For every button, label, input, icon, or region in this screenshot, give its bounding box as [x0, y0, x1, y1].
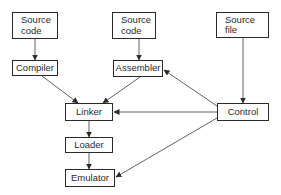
node-label: Loader [74, 140, 104, 151]
node-source-code-1: Source code [12, 12, 58, 39]
node-linker: Linker [65, 103, 113, 121]
node-source-file: Source file [216, 12, 269, 38]
node-control: Control [217, 103, 269, 121]
node-compiler: Compiler [12, 60, 58, 76]
node-assembler: Assembler [113, 60, 163, 77]
node-label: Linker [76, 107, 102, 118]
node-label: Assembler [116, 63, 161, 74]
node-label-line1: Source [21, 15, 51, 26]
node-label-line1: Source [121, 15, 151, 26]
node-emulator: Emulator [65, 169, 115, 187]
node-source-code-2: Source code [112, 12, 156, 39]
node-label: Emulator [71, 173, 109, 184]
node-label-line2: code [21, 26, 51, 37]
node-label-line2: file [225, 25, 255, 36]
node-label-line2: code [121, 26, 151, 37]
edge-control-assembler [164, 70, 217, 106]
edge-compiler-linker [42, 76, 78, 103]
node-label: Control [228, 107, 259, 118]
edge-control-emulator [116, 118, 217, 177]
edge-assembler-linker [103, 77, 140, 103]
node-loader: Loader [65, 137, 113, 153]
node-label: Compiler [16, 63, 54, 74]
